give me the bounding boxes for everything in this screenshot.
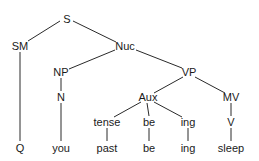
- node-be1: be: [143, 116, 155, 128]
- node-np: NP: [53, 66, 68, 78]
- node-aux: Aux: [139, 91, 158, 103]
- node-mv: MV: [223, 91, 240, 103]
- tree-nodes: SSMNucNPVPNAuxMVtensebeingVQyoupastbeing…: [12, 13, 244, 154]
- node-s: S: [63, 13, 70, 25]
- node-sm: SM: [12, 40, 29, 52]
- node-q: Q: [16, 142, 25, 154]
- node-you: you: [52, 142, 70, 154]
- edge-vp-aux: [154, 77, 183, 93]
- node-v: V: [227, 116, 235, 128]
- edge-nuc-vp: [136, 50, 182, 68]
- node-ing2: ing: [181, 142, 196, 154]
- edge-nuc-np: [69, 50, 115, 69]
- edge-aux-tense: [114, 102, 141, 117]
- edge-vp-mv: [195, 77, 225, 93]
- tree-edges: [20, 21, 231, 141]
- node-tense: tense: [94, 116, 121, 128]
- node-sleep: sleep: [218, 142, 244, 154]
- node-n: N: [57, 91, 65, 103]
- node-nuc: Nuc: [115, 40, 135, 52]
- node-ing1: ing: [181, 116, 196, 128]
- edge-aux-ing1: [154, 102, 182, 117]
- edge-aux-be1: [147, 103, 149, 116]
- syntax-tree-diagram: SSMNucNPVPNAuxMVtensebeingVQyoupastbeing…: [0, 0, 259, 161]
- node-vp: VP: [182, 66, 197, 78]
- edge-s-nuc: [73, 21, 116, 42]
- edge-s-sm: [28, 21, 60, 41]
- node-be2: be: [143, 142, 155, 154]
- node-past: past: [97, 142, 118, 154]
